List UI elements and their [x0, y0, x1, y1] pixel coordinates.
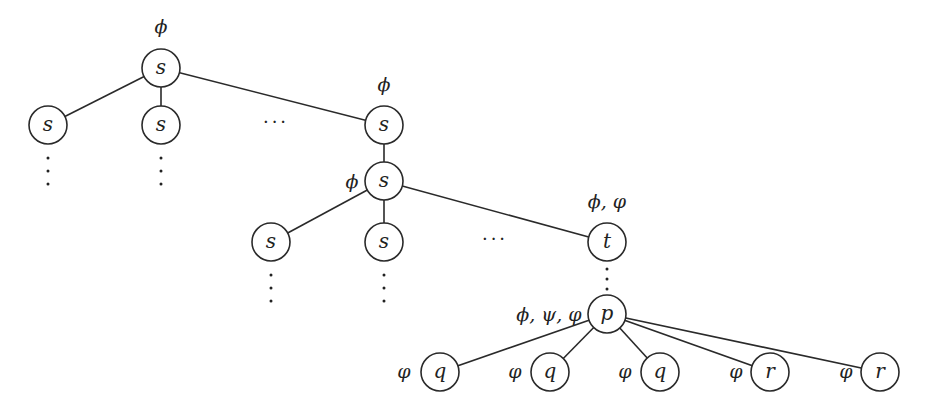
node-label: r [875, 359, 886, 383]
tree-node-p: pϕ, ψ, φ [516, 295, 626, 333]
horizontal-ellipsis: ··· [482, 228, 508, 249]
node-label: s [379, 112, 389, 136]
node-label: s [379, 229, 389, 253]
node-label: q [544, 359, 557, 383]
vertical-ellipsis [47, 157, 50, 186]
horizontal-ellipsis: ··· [263, 111, 289, 132]
node-annotation: ϕ, φ [588, 190, 627, 212]
node-annotation: φ [508, 360, 522, 382]
tree-node-r2: rφ [839, 353, 899, 391]
node-label: q [654, 359, 667, 383]
node-annotation: φ [729, 360, 743, 382]
node-label: s [156, 55, 166, 79]
node-annotation: ϕ [155, 15, 168, 37]
node-annotation: ϕ [346, 170, 359, 192]
node-label: t [603, 229, 612, 253]
tree-node-root: sϕ [142, 15, 180, 87]
tree-node-t: tϕ, φ [588, 190, 627, 261]
node-label: r [765, 359, 776, 383]
node-annotation: φ [397, 360, 411, 382]
node-label: s [43, 112, 53, 136]
tree-node-l2c: sϕ [365, 73, 403, 144]
tree-node-q1: qφ [397, 353, 459, 391]
node-annotation: φ [839, 360, 853, 382]
node-label: p [601, 301, 614, 325]
tree-node-q2: qφ [508, 353, 569, 391]
vertical-ellipsis [383, 274, 386, 303]
node-label: s [379, 168, 389, 192]
tree-node-mid: sϕ [346, 162, 403, 200]
tree-node-l3b: s [365, 223, 403, 303]
tree-node-l2a: s [29, 106, 67, 186]
node-label: s [156, 112, 166, 136]
node-annotation: φ [618, 360, 632, 382]
node-label: q [434, 359, 447, 383]
vertical-ellipsis [270, 274, 273, 303]
node-label: s [266, 229, 276, 253]
tree-node-l3a: s [252, 223, 290, 303]
vertical-ellipsis [160, 157, 163, 186]
vertical-ellipsis-t-p [606, 268, 609, 291]
tree-node-q3: qφ [618, 353, 679, 391]
tree-node-l2b: s [142, 106, 180, 186]
node-annotation: ϕ [378, 73, 391, 95]
tree-node-r1: rφ [729, 353, 789, 391]
tree-diagram: ······ sϕsssϕsϕsstϕ, φpϕ, ψ, φqφqφqφrφrφ [0, 0, 934, 412]
node-annotation: ϕ, ψ, φ [516, 303, 582, 325]
